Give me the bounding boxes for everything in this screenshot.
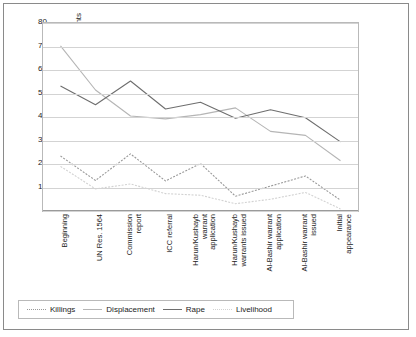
x-tick-label-line: application	[209, 214, 218, 294]
x-tick-label-line: Beginning	[61, 214, 70, 294]
legend-item-displacement[interactable]: Displacement	[83, 305, 154, 314]
plot-area	[42, 22, 359, 212]
chart-legend: KillingsDisplacementRapeLivelihood	[18, 300, 294, 319]
x-tick-label-line: warrants issued	[240, 214, 249, 294]
gridline	[43, 23, 358, 24]
legend-label: Displacement	[106, 305, 154, 314]
legend-swatch-displacement	[83, 309, 102, 310]
x-tick-label-line: ICC referral	[166, 214, 175, 294]
x-tick-label: ICC referral	[166, 214, 175, 294]
x-tick-label: Beginning	[61, 214, 70, 294]
x-tick-label: Initialappearance	[336, 214, 353, 294]
series-line-rape	[61, 81, 341, 142]
x-axis-tick-labels: BeginningUN Res. 1564CommissionreportICC…	[42, 214, 359, 296]
series-line-displacement	[61, 46, 341, 161]
gridline	[43, 141, 358, 142]
x-tick-label: Al-Bashir warrantapplication	[266, 214, 283, 294]
x-axis-line	[43, 210, 358, 211]
x-tick-label: Harun/Kushaybwarrants issued	[231, 214, 248, 294]
legend-swatch-killings	[27, 309, 46, 310]
legend-swatch-rape	[163, 309, 182, 310]
x-tick-label: Harun/Kushaybwarrantapplication	[192, 214, 218, 294]
legend-item-rape[interactable]: Rape	[163, 305, 205, 314]
legend-label: Rape	[186, 305, 205, 314]
gridline	[43, 188, 358, 189]
gridline	[43, 117, 358, 118]
gridline	[43, 164, 358, 165]
gridline	[43, 47, 358, 48]
gridline	[43, 94, 358, 95]
x-tick-label-line: issued	[310, 214, 319, 294]
gridline	[43, 70, 358, 71]
x-tick-label-line: application	[275, 214, 284, 294]
x-tick-label-line: Harun/Kushayb	[192, 214, 201, 294]
x-tick-label: Commissionreport	[126, 214, 143, 294]
x-tick-label-line: appearance	[345, 214, 354, 294]
legend-swatch-livelihood	[213, 309, 232, 310]
figure-container: Percentage of media documents 0102030405…	[3, 3, 409, 330]
legend-item-killings[interactable]: Killings	[27, 305, 75, 314]
legend-item-livelihood[interactable]: Livelihood	[213, 305, 272, 314]
x-tick-label: Al-Bashir warrantissued	[301, 214, 318, 294]
x-tick-label-line: report	[135, 214, 144, 294]
legend-label: Livelihood	[236, 305, 272, 314]
x-tick-label: UN Res. 1564	[96, 214, 105, 294]
gridline	[43, 211, 358, 212]
x-tick-label-line: UN Res. 1564	[96, 214, 105, 294]
legend-label: Killings	[50, 305, 75, 314]
